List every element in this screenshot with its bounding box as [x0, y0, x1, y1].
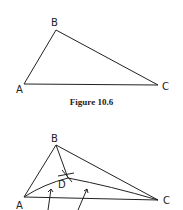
- arrow-left: [48, 189, 53, 210]
- triangle-outline: [24, 145, 158, 200]
- figure-caption: Figure 10.6: [0, 97, 183, 107]
- vertex-label-c: C: [162, 81, 169, 92]
- vertex-label-a: A: [16, 84, 23, 95]
- triangle-abc-figure: [24, 30, 158, 85]
- arrow-right: [78, 189, 88, 210]
- vertex-label-b: B: [51, 17, 58, 28]
- point-label-d: D: [58, 179, 66, 190]
- vertex-label-c: C: [163, 195, 170, 206]
- vertex-label-b: B: [51, 133, 58, 144]
- triangle-construction-figure: [24, 145, 158, 210]
- triangle-outline: [24, 30, 158, 85]
- arc-dc: [68, 178, 158, 200]
- vertex-label-a: A: [16, 200, 23, 210]
